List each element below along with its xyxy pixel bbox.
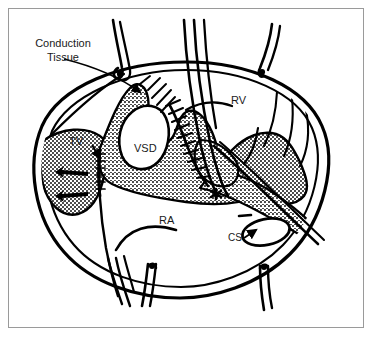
label-conduction-tissue-line1: Conduction bbox=[35, 37, 91, 49]
label-conduction-tissue: Conduction Tissue bbox=[26, 37, 100, 64]
suture-top-right bbox=[259, 24, 280, 77]
ra-floor-line bbox=[116, 227, 176, 250]
label-right-atrium: RA bbox=[159, 214, 174, 226]
label-ventricular-septal-defect: VSD bbox=[134, 142, 157, 154]
suture-top-left bbox=[113, 20, 130, 81]
suture-bottom-left bbox=[108, 256, 134, 306]
label-coronary-sinus: CS bbox=[228, 232, 242, 243]
label-tricuspid-valve: TV bbox=[69, 135, 83, 147]
label-right-ventricle: RV bbox=[231, 94, 246, 106]
figure-container: Conduction Tissue TV VSD RV RA CS bbox=[0, 0, 373, 337]
label-conduction-tissue-line2: Tissue bbox=[47, 51, 79, 63]
